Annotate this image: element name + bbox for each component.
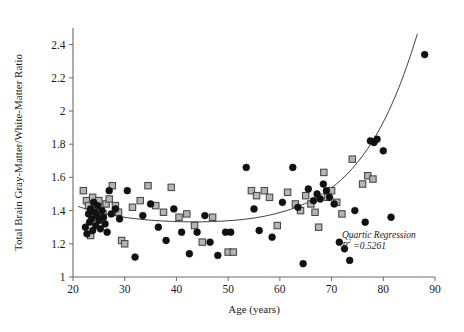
data-point-circle bbox=[351, 207, 358, 214]
data-point-square bbox=[266, 194, 272, 200]
data-point-circle bbox=[163, 237, 170, 244]
y-tick-label: 1.8 bbox=[51, 138, 66, 150]
data-point-circle bbox=[346, 257, 353, 264]
data-point-circle bbox=[331, 201, 338, 208]
data-point-square bbox=[122, 241, 128, 247]
data-point-square bbox=[284, 189, 290, 195]
data-point-circle bbox=[139, 212, 146, 219]
data-point-circle bbox=[374, 136, 381, 143]
y-tick-label: 2.4 bbox=[51, 39, 66, 51]
data-point-circle bbox=[147, 201, 154, 208]
data-point-square bbox=[106, 196, 112, 202]
plot-canvas: 11.21.41.61.822.22.42030405060708090 Qua… bbox=[0, 0, 464, 332]
data-point-square bbox=[160, 209, 166, 215]
data-point-circle bbox=[116, 216, 123, 223]
data-point-circle bbox=[323, 187, 330, 194]
data-point-square bbox=[349, 156, 355, 162]
y-tick-label: 1 bbox=[60, 271, 66, 283]
data-point-circle bbox=[269, 234, 276, 241]
data-point-square bbox=[145, 183, 151, 189]
data-point-square bbox=[339, 211, 345, 217]
x-tick-label: 90 bbox=[429, 283, 441, 295]
y-axis-title: Total Brain Gray-Matter/White-Matter Rat… bbox=[12, 54, 24, 251]
y-tick-label: 1.2 bbox=[51, 238, 66, 250]
x-tick-label: 80 bbox=[378, 283, 390, 295]
data-point-circle bbox=[295, 204, 302, 211]
data-point-square bbox=[359, 181, 365, 187]
data-point-circle bbox=[362, 219, 369, 226]
regression-annotation-line1: Quartic Regression bbox=[342, 230, 416, 240]
data-point-circle bbox=[320, 181, 327, 188]
data-point-circle bbox=[279, 199, 286, 206]
x-tick-label: 20 bbox=[67, 283, 79, 295]
data-point-square bbox=[253, 192, 259, 198]
data-point-square bbox=[176, 214, 182, 220]
data-point-circle bbox=[251, 206, 258, 213]
data-point-circle bbox=[305, 186, 312, 193]
data-point-square bbox=[184, 211, 190, 217]
data-point-circle bbox=[289, 164, 296, 171]
data-point-circle bbox=[380, 147, 387, 154]
data-point-square bbox=[209, 214, 215, 220]
data-point-circle bbox=[178, 229, 185, 236]
data-point-circle bbox=[214, 252, 221, 259]
data-point-circle bbox=[104, 229, 111, 236]
data-point-circle bbox=[388, 214, 395, 221]
data-point-square bbox=[315, 224, 321, 230]
data-point-circle bbox=[112, 206, 119, 213]
x-tick-label: 40 bbox=[171, 283, 183, 295]
y-tick-label: 1.4 bbox=[51, 205, 66, 217]
data-point-circle bbox=[155, 224, 162, 231]
x-tick-label: 30 bbox=[119, 283, 131, 295]
data-point-circle bbox=[300, 260, 307, 267]
data-point-square bbox=[191, 222, 197, 228]
data-point-circle bbox=[256, 227, 263, 234]
data-point-circle bbox=[326, 194, 333, 201]
y-tick-label: 1.6 bbox=[51, 171, 66, 183]
data-point-circle bbox=[100, 214, 107, 221]
y-tick-label: 2 bbox=[60, 105, 66, 117]
data-point-square bbox=[274, 222, 280, 228]
data-point-square bbox=[321, 169, 327, 175]
data-point-circle bbox=[170, 206, 177, 213]
x-tick-label: 60 bbox=[274, 283, 286, 295]
data-point-square bbox=[80, 187, 86, 193]
data-point-circle bbox=[194, 229, 201, 236]
data-point-circle bbox=[106, 187, 113, 194]
data-point-circle bbox=[102, 220, 109, 227]
data-point-square bbox=[370, 176, 376, 182]
data-point-circle bbox=[99, 207, 106, 214]
scatter-plot-figure: 11.21.41.61.822.22.42030405060708090 Qua… bbox=[0, 0, 464, 332]
data-point-square bbox=[230, 249, 236, 255]
data-point-circle bbox=[201, 212, 208, 219]
data-point-square bbox=[312, 209, 318, 215]
data-point-circle bbox=[124, 187, 131, 194]
x-tick-label: 70 bbox=[326, 283, 338, 295]
data-point-circle bbox=[317, 196, 324, 203]
annotations-group: Quartic RegressionR2 =0.5261 bbox=[341, 230, 416, 252]
data-point-square bbox=[199, 239, 205, 245]
data-point-square bbox=[261, 187, 267, 193]
data-point-circle bbox=[207, 239, 214, 246]
data-point-square bbox=[129, 204, 135, 210]
x-axis-title: Age (years) bbox=[228, 303, 280, 316]
data-point-circle bbox=[243, 164, 250, 171]
data-point-circle bbox=[421, 51, 428, 58]
data-point-circle bbox=[132, 254, 139, 261]
data-point-square bbox=[168, 184, 174, 190]
y-tick-label: 2.2 bbox=[51, 72, 66, 84]
data-point-square bbox=[137, 197, 143, 203]
data-point-square bbox=[303, 192, 309, 198]
data-point-circle bbox=[310, 197, 317, 204]
x-tick-label: 50 bbox=[222, 283, 234, 295]
data-point-circle bbox=[186, 250, 193, 257]
data-point-circle bbox=[227, 229, 234, 236]
